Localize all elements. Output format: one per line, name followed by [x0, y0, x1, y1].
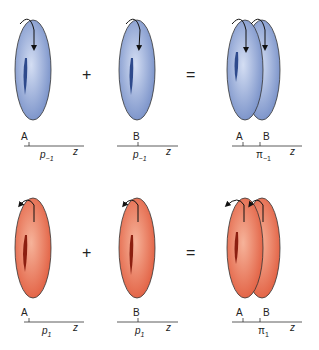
- atom-label: A: [236, 131, 243, 142]
- orbital-label: π1: [258, 325, 269, 338]
- plus-operator: +: [82, 244, 91, 262]
- atom-label: B: [263, 307, 270, 318]
- axis-label: z: [290, 146, 295, 157]
- orbital-b-p-1: [119, 198, 155, 298]
- axis-label: z: [73, 322, 78, 333]
- atom-label: B: [133, 131, 140, 142]
- diagram-canvas: [0, 0, 319, 350]
- axis-label: z: [73, 146, 78, 157]
- atom-label: A: [236, 307, 243, 318]
- axis-label: z: [166, 146, 171, 157]
- axis-label: z: [290, 322, 295, 333]
- orbital-label: p1: [135, 325, 144, 338]
- orbital-label: p1: [42, 325, 51, 338]
- orbital-a-p-minus-1: [15, 19, 51, 120]
- orbital-label: p−1: [40, 149, 54, 162]
- orbital-a-p-1: [15, 198, 51, 298]
- axis-label: z: [166, 322, 171, 333]
- atom-label: B: [263, 131, 270, 142]
- orbital-b-p-minus-1: [119, 19, 155, 120]
- orbital-pi-1: [227, 198, 280, 298]
- equals-operator: =: [186, 66, 195, 84]
- equals-operator: =: [186, 244, 195, 262]
- orbital-label: p−1: [133, 149, 147, 162]
- atom-label: B: [133, 307, 140, 318]
- orbital-pi-minus-1: [227, 19, 280, 120]
- plus-operator: +: [82, 66, 91, 84]
- atom-label: A: [21, 307, 28, 318]
- orbital-label: π−1: [256, 149, 271, 162]
- atom-label: A: [21, 131, 28, 142]
